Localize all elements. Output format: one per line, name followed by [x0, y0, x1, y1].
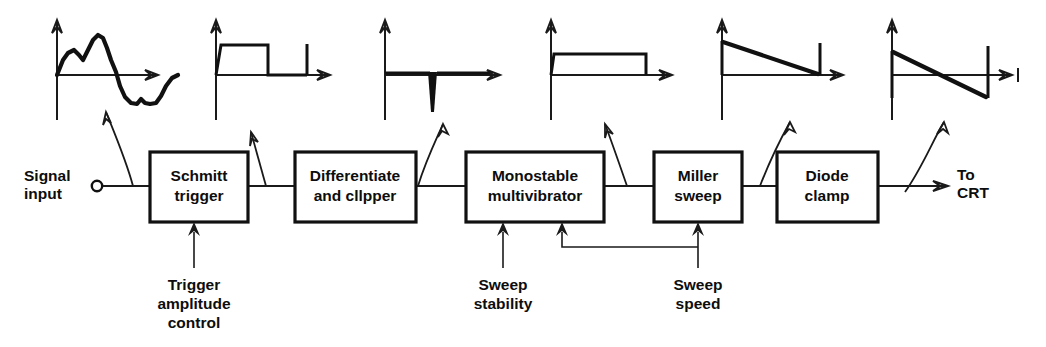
control-label-line1: Trigger	[168, 276, 221, 293]
output-label-line2: CRT	[957, 184, 989, 201]
block-monostable-multivibrator[interactable]: Monostable multivibrator	[466, 152, 604, 222]
block-diode-clamp[interactable]: Diode clamp	[777, 152, 878, 222]
block-label-line1: Diode	[805, 167, 848, 184]
block-diagram-figure: Schmitt trigger Differentiate and cllppe…	[0, 0, 1046, 347]
control-wires	[188, 222, 704, 268]
block-label-line2: trigger	[174, 187, 223, 204]
output-label-line1: To	[957, 166, 975, 183]
block-miller-sweep[interactable]: Miller sweep	[654, 152, 742, 222]
control-label-line2: stability	[474, 295, 533, 312]
control-label-line1: Sweep	[673, 276, 722, 293]
block-label-line1: Miller	[678, 167, 718, 184]
waveform-ramp	[717, 20, 843, 120]
signal-input-terminal	[92, 181, 102, 191]
block-label-line2: sweep	[674, 187, 721, 204]
diagram-canvas: Schmitt trigger Differentiate and cllppe…	[0, 0, 1046, 347]
block-label-line1: Schmitt	[171, 167, 228, 184]
waveform-gate	[546, 20, 672, 120]
block-differentiate-and-clipper[interactable]: Differentiate and cllpper	[295, 152, 416, 222]
control-label-sweep-stability: Sweep stability	[474, 276, 533, 312]
control-label-trigger-amplitude: Trigger amplitude control	[157, 276, 231, 331]
control-label-sweep-speed: Sweep speed	[673, 276, 722, 312]
block-label-line2: multivibrator	[488, 187, 583, 204]
control-label-line2: speed	[676, 295, 721, 312]
block-schmitt-trigger[interactable]: Schmitt trigger	[150, 152, 248, 222]
signal-input-label-line2: input	[24, 185, 62, 202]
block-label-line1: Monostable	[492, 167, 578, 184]
waveform-clamped-ramp	[887, 20, 1018, 120]
waveform-spike	[380, 20, 500, 120]
signal-input-label-line1: Signal	[24, 167, 71, 184]
block-label-line2: clamp	[805, 187, 850, 204]
control-label-line1: Sweep	[478, 276, 527, 293]
waveform-squared	[211, 20, 330, 120]
block-label-line1: Differentiate	[310, 167, 401, 184]
block-label-line2: and cllpper	[314, 187, 397, 204]
control-label-line2: amplitude	[157, 295, 231, 312]
waveform-input	[52, 20, 178, 120]
control-label-line3: control	[168, 314, 221, 331]
